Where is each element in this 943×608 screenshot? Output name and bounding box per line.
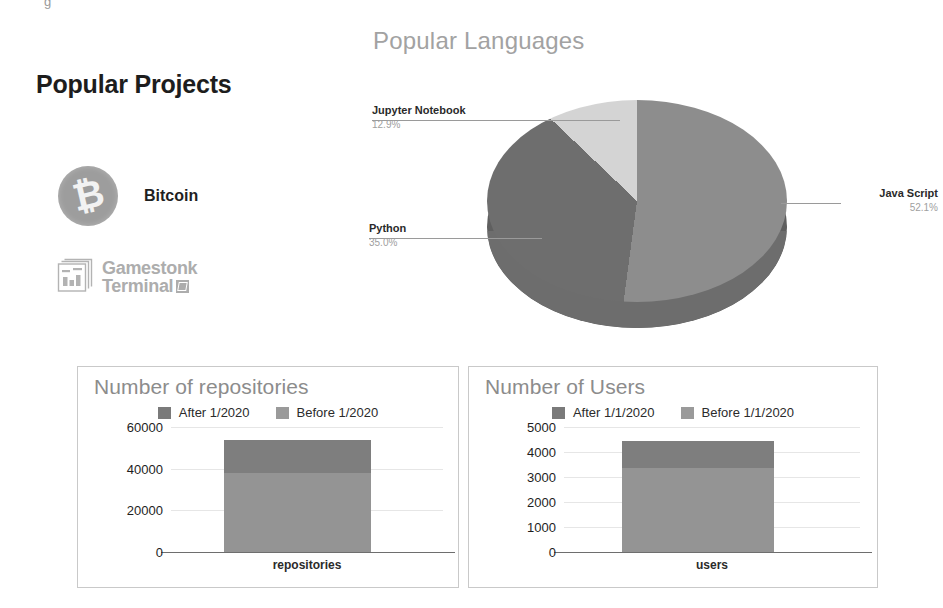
ytick-5000: 5000 bbox=[527, 420, 556, 435]
project-item-gamestonk-terminal: Gamestonk Terminal bbox=[56, 258, 197, 296]
gamestonk-line-2-wrap: Terminal bbox=[102, 277, 197, 295]
legend-swatch-before-icon bbox=[276, 407, 289, 419]
ytick-1000: 1000 bbox=[527, 520, 556, 535]
pie-callout-jupyter: Jupyter Notebook 12.9% bbox=[372, 104, 466, 130]
ytick-2000: 2000 bbox=[527, 495, 556, 510]
pie-callout-jupyter-value: 12.9% bbox=[372, 119, 466, 130]
users-x-label: users bbox=[696, 558, 728, 572]
bar-segment-after bbox=[224, 440, 371, 473]
bar-repositories[interactable] bbox=[224, 440, 371, 553]
gamestonk-mark-icon bbox=[176, 280, 189, 293]
gamestonk-wordmark: Gamestonk Terminal bbox=[102, 259, 197, 296]
bar-segment-after bbox=[622, 441, 774, 469]
gridline-5000 bbox=[564, 427, 860, 428]
repositories-x-axis bbox=[161, 552, 455, 553]
gamestonk-line-2: Terminal bbox=[102, 277, 173, 295]
ytick-40000: 40000 bbox=[127, 461, 163, 476]
legend-item-before[interactable]: Before 1/1/2020 bbox=[681, 405, 795, 420]
repositories-plot-area: 60000 40000 20000 0 repositories bbox=[171, 427, 443, 552]
users-chart-title: Number of Users bbox=[485, 375, 645, 399]
legend-label-after: After 1/2020 bbox=[179, 405, 250, 420]
bitcoin-glyph: ₿ bbox=[69, 173, 108, 217]
gamestonk-line-1: Gamestonk bbox=[102, 259, 197, 277]
ytick-4000: 4000 bbox=[527, 445, 556, 460]
project-item-bitcoin: ₿ Bitcoin bbox=[58, 166, 198, 226]
project-label-bitcoin: Bitcoin bbox=[144, 187, 198, 205]
legend-swatch-after-icon bbox=[552, 407, 565, 419]
pie-callout-javascript-value: 52.1% bbox=[781, 202, 938, 213]
legend-item-after[interactable]: After 1/2020 bbox=[158, 405, 250, 420]
users-chart-legend: After 1/1/2020 Before 1/1/2020 bbox=[469, 405, 877, 420]
legend-swatch-after-icon bbox=[158, 407, 171, 419]
pie-callout-python: Python 35.0% bbox=[369, 222, 406, 248]
gridline-60000 bbox=[171, 427, 443, 428]
pie-3d-top-face bbox=[487, 100, 787, 302]
repositories-chart-title: Number of repositories bbox=[94, 375, 309, 399]
pie-callout-javascript: Java Script 52.1% bbox=[781, 187, 938, 213]
repositories-chart-legend: After 1/2020 Before 1/2020 bbox=[78, 405, 458, 420]
repositories-chart-panel: Number of repositories After 1/2020 Befo… bbox=[77, 366, 459, 588]
ytick-20000: 20000 bbox=[127, 503, 163, 518]
slide-canvas: g Popular Projects ₿ Bitcoin bbox=[0, 0, 943, 608]
pie-callout-jupyter-label: Jupyter Notebook bbox=[372, 104, 466, 116]
pie-callout-python-label: Python bbox=[369, 222, 406, 234]
bar-segment-before bbox=[224, 473, 371, 552]
popular-languages-title: Popular Languages bbox=[373, 27, 585, 55]
ytick-0: 0 bbox=[156, 545, 163, 560]
popular-languages-pie-chart bbox=[487, 100, 787, 340]
users-x-axis bbox=[554, 552, 872, 553]
users-chart-panel: Number of Users After 1/1/2020 Before 1/… bbox=[468, 366, 878, 588]
legend-label-before: Before 1/2020 bbox=[297, 405, 379, 420]
legend-label-before: Before 1/1/2020 bbox=[702, 405, 795, 420]
legend-label-after: After 1/1/2020 bbox=[573, 405, 655, 420]
pie-callout-javascript-label: Java Script bbox=[781, 187, 938, 199]
popular-projects-heading: Popular Projects bbox=[36, 70, 231, 99]
legend-item-after[interactable]: After 1/1/2020 bbox=[552, 405, 655, 420]
pie-callout-python-value: 35.0% bbox=[369, 237, 406, 248]
ytick-0: 0 bbox=[549, 545, 556, 560]
bitcoin-icon: ₿ bbox=[58, 166, 118, 226]
top-cut-text: g bbox=[44, 0, 52, 9]
bar-segment-before bbox=[622, 468, 774, 552]
ytick-60000: 60000 bbox=[127, 420, 163, 435]
repositories-x-label: repositories bbox=[273, 558, 342, 572]
ytick-3000: 3000 bbox=[527, 470, 556, 485]
legend-item-before[interactable]: Before 1/2020 bbox=[276, 405, 379, 420]
gamestonk-terminal-icon bbox=[56, 258, 96, 296]
legend-swatch-before-icon bbox=[681, 407, 694, 419]
bar-users[interactable] bbox=[622, 441, 774, 552]
users-plot-area: 5000 4000 3000 2000 1000 0 users bbox=[564, 427, 860, 552]
